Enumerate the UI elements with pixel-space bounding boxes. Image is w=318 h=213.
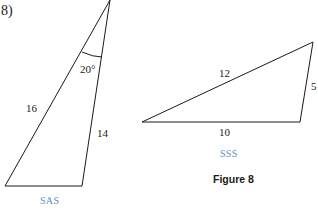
figure-canvas: 8) 20° 16 14 SAS 12 5 10 SSS Figure 8	[0, 0, 318, 213]
triangle-sss-shape	[142, 42, 313, 122]
sas-label: SAS	[40, 195, 59, 206]
triangle-sss: 12 5 10 SSS	[142, 42, 317, 159]
side-label-12: 12	[219, 67, 230, 79]
problem-number: 8)	[1, 3, 13, 19]
side-label-10: 10	[219, 126, 231, 138]
figure-caption: Figure 8	[213, 173, 254, 185]
triangle-sas-shape	[5, 0, 110, 186]
angle-arc-icon	[82, 52, 102, 57]
side-label-5: 5	[311, 80, 317, 92]
side-label-14: 14	[97, 127, 109, 139]
sss-label: SSS	[220, 148, 238, 159]
triangle-sas: 20° 16 14 SAS	[5, 0, 110, 206]
angle-label: 20°	[80, 63, 95, 75]
side-label-16: 16	[26, 102, 38, 114]
